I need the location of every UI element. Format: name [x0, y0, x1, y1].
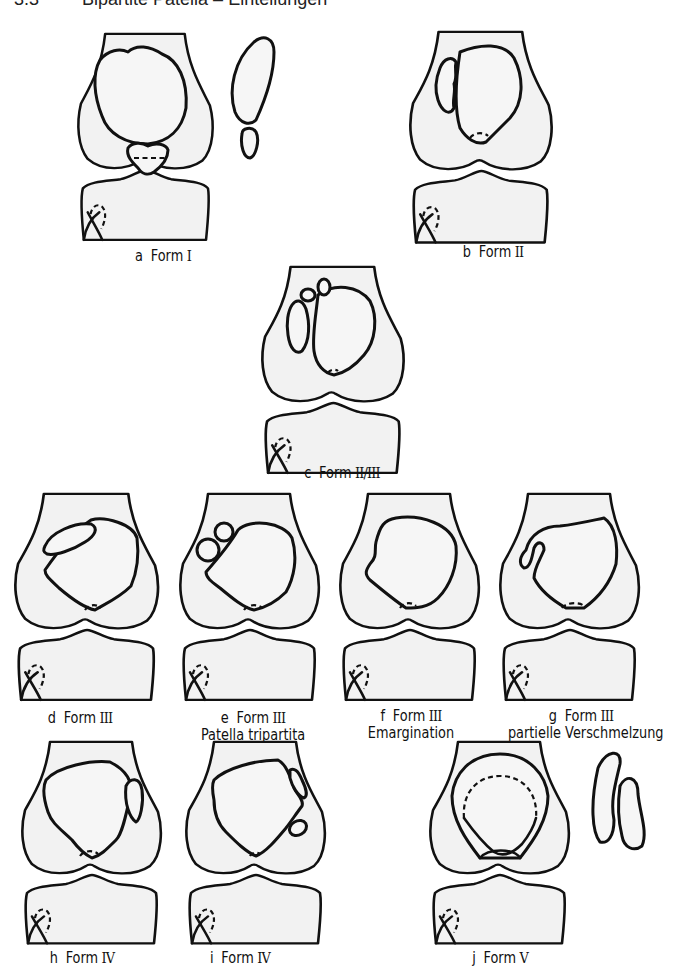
caption-d: dFormIII — [33, 710, 128, 727]
knee-drawing-form-4 — [22, 740, 172, 970]
panel-j: jFormV — [430, 740, 680, 973]
knee-drawing-form-3 — [15, 492, 165, 732]
section-title: Bipartite Patella – Einteilungen — [82, 0, 327, 9]
panel-b: bFormII — [410, 28, 570, 268]
caption-h: hFormIV — [30, 950, 133, 967]
section-header: 3.3 Bipartite Patella – Einteilungen — [14, 0, 327, 10]
panel-a: aFormI — [78, 30, 298, 270]
knee-drawing-form-2 — [410, 28, 570, 268]
knee-drawing-form-3-emargination — [340, 490, 490, 730]
panel-e: eFormIII Patella tripartita — [180, 492, 330, 752]
section-number: 3.3 — [14, 0, 39, 9]
caption-b: bFormII — [446, 244, 541, 261]
knee-drawing-form-4-variant — [186, 740, 336, 970]
panel-g: gFormIII partielle Verschmelzung — [500, 490, 660, 750]
knee-drawing-form-2-3 — [262, 265, 412, 495]
caption-f: fFormIII Emargination — [347, 708, 476, 742]
caption-i: iFormIV — [188, 950, 291, 967]
panel-c: cFormII/III — [262, 265, 412, 495]
knee-drawing-form-5-duplex — [430, 740, 680, 970]
knee-drawing-form-3-partial-fusion — [500, 490, 660, 730]
panel-i: iFormIV — [186, 740, 336, 973]
caption-j: jFormV — [448, 950, 551, 967]
knee-drawing-form-1 — [78, 30, 298, 270]
panel-h: hFormIV — [22, 740, 172, 973]
panel-d: dFormIII — [15, 492, 165, 732]
caption-a: aFormI — [116, 248, 211, 265]
knee-drawing-form-3-tripartita — [180, 492, 330, 732]
caption-e: eFormIII Patella tripartita — [189, 710, 318, 744]
caption-c: cFormII/III — [290, 465, 393, 482]
panel-f: fFormIII Emargination — [340, 490, 490, 750]
caption-g: gFormIII partielle Verschmelzung — [508, 708, 654, 742]
